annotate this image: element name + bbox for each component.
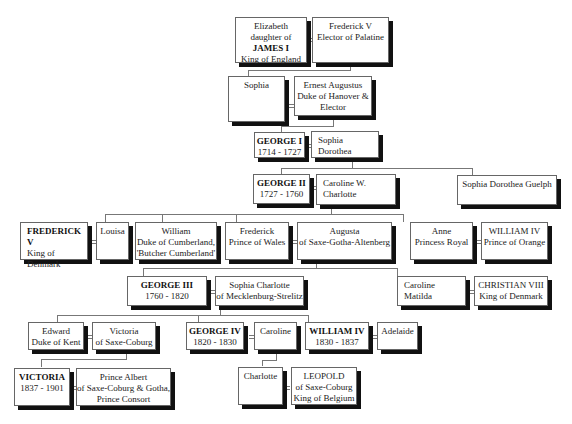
name-line: WILLIAM IV (482, 226, 547, 237)
name-line: Princess Royal (411, 237, 472, 248)
name-line: Prince Albert (77, 372, 170, 383)
marriage-link (88, 240, 96, 244)
connector (198, 315, 199, 322)
name-line: Elector of Palatine (313, 32, 388, 43)
connector (248, 70, 351, 71)
name-line: Caroline (255, 326, 296, 337)
connector (352, 157, 353, 168)
connector (403, 214, 404, 222)
name-line: of Mecklenburg-Strelitz (216, 291, 303, 302)
person-frederick-wales[interactable]: Frederick Prince of Wales (225, 222, 289, 260)
name-line: William (136, 226, 216, 237)
name-line: GEORGE IV (187, 326, 243, 337)
person-ernest-augustus[interactable]: Ernest Augustus Duke of Hanover & Electo… (294, 76, 372, 116)
connector (105, 214, 404, 215)
name-line: 1837 - 1901 (15, 383, 69, 394)
name-line: King of Denmark (475, 291, 547, 302)
name-line: of Saxe-Coburg (292, 382, 356, 393)
name-line: Duke of Kent (29, 337, 83, 348)
name-line: Elector (295, 102, 371, 113)
person-charlotte[interactable]: Charlotte (238, 367, 283, 405)
connector (316, 259, 317, 268)
person-victoria[interactable]: VICTORIA 1837 - 1901 (14, 368, 70, 406)
person-louisa[interactable]: Louisa (96, 222, 129, 260)
person-william-iv[interactable]: WILLIAM IV 1830 - 1837 (305, 322, 369, 350)
name-line: WILLIAM IV (306, 326, 368, 337)
name-line: Ernest Augustus (295, 80, 371, 91)
person-elizabeth[interactable]: Elizabeth daughter of JAMES I King of En… (235, 17, 307, 63)
name-line: LEOPOLD (292, 371, 356, 382)
name-line: Sophia Dorothea (318, 135, 378, 157)
connector (41, 359, 42, 367)
name-line: Frederick (226, 226, 288, 237)
person-sophia-dorothea-guelph[interactable]: Sophia Dorothea Guelph (457, 175, 557, 205)
name-line: Prince of Wales (226, 237, 288, 248)
name-line: Adelaide (378, 326, 417, 337)
name-line: VICTORIA (15, 372, 69, 383)
name-line: CHRISTIAN VIII (475, 280, 547, 291)
name-line: Louisa (97, 226, 128, 237)
connector (397, 268, 398, 276)
name-line: 1830 - 1837 (306, 337, 368, 348)
name-line: Augusta (298, 226, 391, 237)
name-line: Caroline Matilda (404, 280, 465, 302)
marriage-link (283, 386, 290, 390)
name-line: Edward (29, 326, 83, 337)
connector (57, 315, 309, 316)
person-george-iii[interactable]: GEORGE III 1760 - 1820 (127, 276, 207, 306)
name-line: FREDERICK V (27, 226, 87, 248)
name-line: Frederick V (313, 21, 388, 32)
connector (220, 306, 221, 315)
person-edward[interactable]: Edward Duke of Kent (28, 322, 84, 350)
person-frederick-v-palatine[interactable]: Frederick V Elector of Palatine (312, 17, 389, 63)
marriage-link (289, 240, 297, 244)
person-sophia-dorothea[interactable]: Sophia Dorothea (311, 131, 379, 158)
connector (331, 205, 332, 214)
person-leopold[interactable]: LEOPOLD of Saxe-Coburg King of Belgium (291, 367, 357, 405)
connector (41, 359, 127, 360)
person-christian-viii[interactable]: CHRISTIAN VIII King of Denmark (474, 276, 548, 306)
name-line: of Saxe-Coburg (93, 337, 155, 348)
person-george-ii[interactable]: GEORGE II 1727 - 1760 (253, 174, 310, 204)
person-william-iv-orange[interactable]: WILLIAM IV Prince of Orange (481, 222, 548, 260)
name-line: Sophia Charlotte (216, 280, 303, 291)
person-caroline-matilda[interactable]: Caroline Matilda (397, 276, 466, 306)
name-line: King of England (236, 54, 306, 65)
person-william-cumberland[interactable]: William Duke of Cumberland, 'Butcher Cum… (135, 222, 217, 260)
person-frederick-v-denmark[interactable]: FREDERICK V King of Denmark (20, 222, 88, 260)
person-anne[interactable]: Anne Princess Royal (410, 222, 473, 260)
person-george-iv[interactable]: GEORGE IV 1820 - 1830 (186, 322, 244, 350)
name-line: Victoria (93, 326, 155, 337)
person-prince-albert[interactable]: Prince Albert of Saxe-Coburg & Gotha, Pr… (76, 368, 171, 406)
connector (281, 168, 473, 169)
name-line: Anne (411, 226, 472, 237)
connector (162, 214, 163, 222)
name-line: Elizabeth (236, 21, 306, 32)
marriage-link (466, 290, 474, 294)
person-caroline[interactable]: Caroline (254, 322, 297, 350)
person-george-i[interactable]: GEORGE I 1714 - 1727 (254, 132, 305, 158)
name-line: GEORGE I (255, 136, 304, 147)
marriage-link (473, 240, 481, 244)
name-line: Prince Consort (77, 394, 170, 405)
connector (333, 115, 334, 126)
name-line: GEORGE III (128, 280, 206, 291)
connector (126, 350, 127, 359)
connector (262, 360, 277, 361)
person-augusta[interactable]: Augusta of Saxe-Gotha-Altenberg (297, 222, 392, 260)
person-sophia-charlotte[interactable]: Sophia Charlotte of Mecklenburg-Strelitz (215, 276, 304, 306)
person-caroline-w-charlotte[interactable]: Caroline W. Charlotte (316, 174, 396, 205)
name-line: King of Belgium (292, 393, 356, 404)
name-line: Duke of Cumberland, (136, 237, 216, 248)
name-line: 1727 - 1760 (254, 189, 309, 200)
name-line: daughter of (236, 32, 306, 43)
name-line: Sophia Dorothea Guelph (458, 179, 556, 190)
name-line: 1820 - 1830 (187, 337, 243, 348)
name-line: 1714 - 1727 (255, 147, 304, 158)
person-sophia[interactable]: Sophia (228, 76, 285, 122)
person-victoria-saxe-coburg[interactable]: Victoria of Saxe-Coburg (92, 322, 156, 350)
person-adelaide[interactable]: Adelaide (377, 322, 418, 350)
name-line: 1760 - 1820 (128, 291, 206, 302)
connector (281, 126, 334, 127)
connector (276, 350, 277, 360)
